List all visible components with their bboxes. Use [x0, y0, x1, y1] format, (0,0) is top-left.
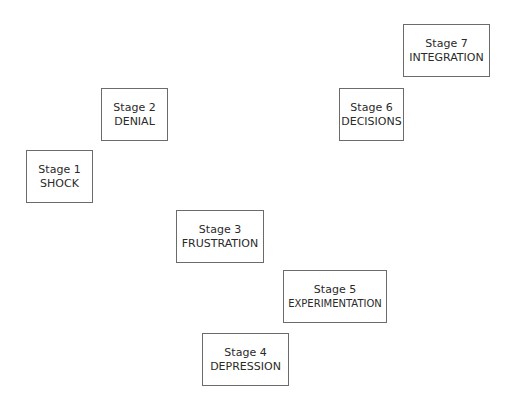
stage-6-box: Stage 6 DECISIONS	[339, 88, 404, 141]
stage-name: DENIAL	[114, 115, 155, 129]
stage-number: Stage 5	[314, 283, 356, 297]
stage-name: INTEGRATION	[409, 51, 483, 65]
stage-3-box: Stage 3 FRUSTRATION	[176, 210, 264, 263]
stage-number: Stage 4	[224, 346, 266, 360]
stage-number: Stage 7	[425, 37, 467, 51]
stage-name: FRUSTRATION	[182, 237, 258, 251]
stage-7-box: Stage 7 INTEGRATION	[403, 24, 490, 77]
stage-4-box: Stage 4 DEPRESSION	[202, 333, 289, 386]
stage-2-box: Stage 2 DENIAL	[101, 88, 168, 141]
stage-name: DECISIONS	[341, 115, 401, 129]
stage-number: Stage 1	[38, 163, 80, 177]
stage-name: EXPERIMENTATION	[288, 297, 382, 311]
stage-1-box: Stage 1 SHOCK	[26, 150, 93, 203]
stage-name: SHOCK	[40, 177, 79, 191]
stage-5-box: Stage 5 EXPERIMENTATION	[283, 270, 387, 323]
stage-number: Stage 6	[350, 101, 392, 115]
stage-number: Stage 2	[113, 101, 155, 115]
stage-number: Stage 3	[199, 223, 241, 237]
stage-name: DEPRESSION	[210, 360, 281, 374]
